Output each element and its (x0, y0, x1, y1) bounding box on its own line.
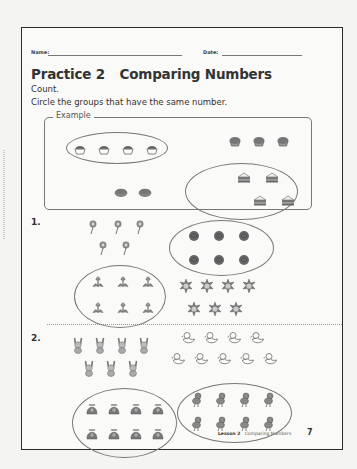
picture-groups (22, 28, 342, 449)
worksheet-page: Name: Date: Practice 2 Comparing Numbers… (21, 27, 343, 450)
copyright-margin-text (3, 150, 5, 240)
problem-2-hedgehog-circle[interactable] (72, 388, 177, 458)
